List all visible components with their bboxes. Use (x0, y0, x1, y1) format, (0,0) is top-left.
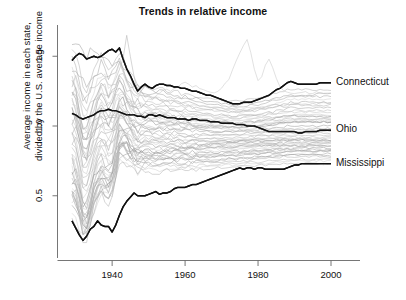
series-line-background (72, 158, 331, 236)
series-label-mississippi: Mississippi (336, 157, 384, 168)
y-tick-label: 1.0 (32, 114, 43, 138)
series-label-ohio: Ohio (336, 123, 357, 134)
x-tick-label: 1940 (100, 269, 124, 280)
series-line-background (72, 142, 331, 234)
y-tick-label: 1.5 (32, 44, 43, 68)
y-tick-label: 0.5 (32, 183, 43, 207)
figure-container: Trends in relative income Average income… (0, 0, 406, 300)
line-chart-plot (0, 0, 406, 300)
x-tick-label: 1960 (173, 269, 197, 280)
series-line-background (72, 142, 331, 229)
series-label-connecticut: Connecticut (336, 76, 389, 87)
series-line-background (72, 146, 331, 234)
x-tick-label: 2000 (319, 269, 343, 280)
series-layer (72, 35, 331, 242)
x-tick-label: 1980 (246, 269, 270, 280)
series-line-background (72, 135, 331, 221)
